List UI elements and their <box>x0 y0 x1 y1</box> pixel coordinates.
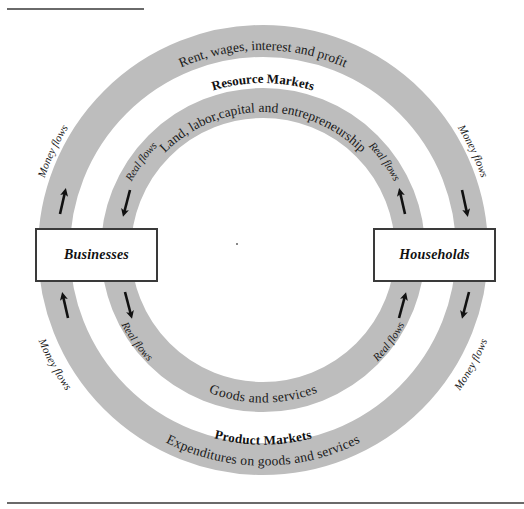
businesses-node: Businesses <box>35 228 158 282</box>
households-label: Households <box>399 247 469 263</box>
households-node: Households <box>373 228 496 282</box>
center-mark <box>236 243 238 245</box>
businesses-label: Businesses <box>64 247 129 263</box>
